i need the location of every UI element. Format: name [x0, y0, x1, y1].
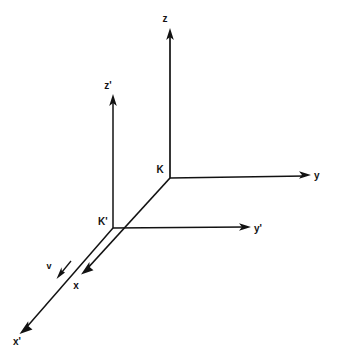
y-axis: y: [170, 170, 320, 181]
x-axis: x: [73, 178, 170, 291]
y-axis-line: [170, 176, 305, 178]
frame-origin-label-k-prime: K': [98, 216, 108, 227]
frame-k-group: z y x K: [73, 13, 320, 291]
z-prime-axis: z': [104, 80, 116, 228]
x-axis-label: x: [73, 280, 79, 291]
y-prime-axis: y': [113, 223, 262, 234]
x-prime-axis: x': [13, 228, 113, 347]
y-prime-axis-line: [113, 227, 245, 228]
frame-origin-label-k: K: [156, 164, 164, 175]
x-prime-axis-line: [25, 228, 113, 329]
z-prime-axis-label: z': [104, 80, 111, 91]
velocity-vector-group: v: [46, 261, 71, 279]
velocity-label: v: [46, 261, 51, 271]
y-axis-label: y: [314, 170, 320, 181]
x-prime-axis-label: x': [13, 336, 21, 347]
diagram-canvas: z y x K z': [0, 0, 337, 363]
reference-frame-diagram: z y x K z': [0, 0, 337, 363]
y-prime-axis-label: y': [254, 223, 262, 234]
y-axis-arrowhead-icon: [299, 171, 311, 179]
z-axis: z: [163, 13, 174, 178]
z-axis-label: z: [163, 13, 168, 24]
